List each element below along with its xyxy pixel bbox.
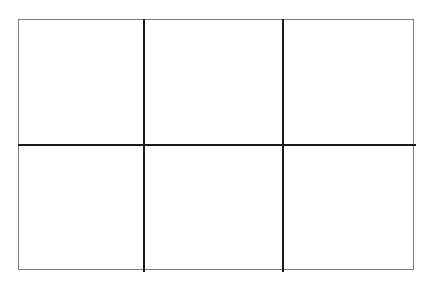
grid-cell-r2c3 [284,146,414,270]
grid-cell-r1c3 [284,20,414,144]
grid-cell-r2c2 [145,146,282,270]
grid-cell-r2c1 [19,146,143,270]
grid-diagram [18,19,414,270]
horizontal-divider [18,144,416,146]
grid-cell-r1c2 [145,20,282,144]
grid-cell-r1c1 [19,20,143,144]
